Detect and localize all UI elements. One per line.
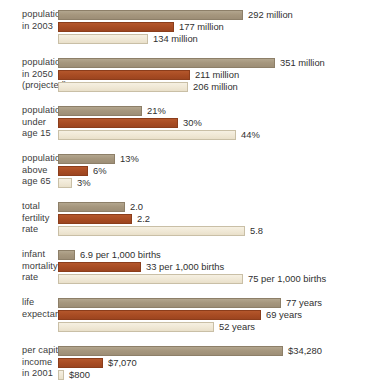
bar-value-label: $34,280 [288,346,322,356]
bar-value-label: 211 million [195,70,239,80]
bar-value-label: 52 years [219,322,255,332]
category-label-line: population [22,153,58,165]
category-label-line: total [22,201,58,213]
category-label-line: in 2003 [22,21,58,33]
bar-value-label: 177 million [179,22,224,32]
bar-series-2 [58,22,174,32]
bar-set: 21%30%44% [58,104,383,142]
bar-set: 292 million177 million134 million [58,8,383,46]
bar-series-2 [58,262,141,272]
bar-series-2 [58,118,178,128]
bar-value-label: 75 per 1,000 births [248,274,326,284]
bar-group: totalfertilityrate2.02.25.8 [0,200,383,238]
category-label-line: rate [22,272,58,284]
bar-set: 6.9 per 1,000 births33 per 1,000 births7… [58,248,383,286]
bar-value-label: 77 years [286,298,322,308]
bar-row: 44% [58,130,383,140]
bar-row: 52 years [58,322,383,332]
bar-row: 30% [58,118,383,128]
bar-series-2 [58,358,103,368]
bar-series-1 [58,298,281,308]
bar-group: infantmortalityrate6.9 per 1,000 births3… [0,248,383,286]
bar-row: 177 million [58,22,383,32]
bar-value-label: 33 per 1,000 births [146,262,224,272]
category-label: infantmortalityrate [0,248,58,284]
bar-row: 134 million [58,34,383,44]
bar-set: $34,280$7,070$800 [58,344,383,382]
bar-row: 292 million [58,10,383,20]
bar-value-label: 30% [183,118,202,128]
bar-group: populationunderage 1521%30%44% [0,104,383,142]
category-label: lifeexpectancy [0,296,58,320]
bar-series-2 [58,310,261,320]
bar-set: 13%6%3% [58,152,383,190]
bar-row: 33 per 1,000 births [58,262,383,272]
bar-series-3 [58,274,243,284]
bar-group: lifeexpectancy77 years69 years52 years [0,296,383,334]
bar-row: 13% [58,154,383,164]
bar-series-1 [58,58,275,68]
bar-row: 77 years [58,298,383,308]
bar-row: 351 million [58,58,383,68]
bar-row: $34,280 [58,346,383,356]
category-label-line: above [22,165,58,177]
bar-row: 211 million [58,70,383,80]
bar-series-3 [58,34,148,44]
bar-value-label: 206 million [193,82,238,92]
bar-series-3 [58,82,188,92]
bar-row: 75 per 1,000 births [58,274,383,284]
category-label-line: (projected) [22,80,58,92]
bar-row: $7,070 [58,358,383,368]
bar-value-label: $7,070 [108,358,137,368]
bar-value-label: 69 years [266,310,302,320]
category-label: totalfertilityrate [0,200,58,236]
category-label: populationin 2050(projected) [0,56,58,92]
category-label: populationunderage 15 [0,104,58,140]
bar-series-1 [58,10,243,20]
bar-series-3 [58,322,214,332]
category-label-line: expectancy [22,309,58,321]
bar-value-label: 2.2 [137,214,150,224]
bar-value-label: $800 [69,370,90,380]
category-label-line: in 2050 [22,69,58,81]
bar-value-label: 5.8 [250,226,263,236]
bar-group: populationin 2050(projected)351 million2… [0,56,383,94]
bar-value-label: 292 million [248,10,293,20]
bar-row: 6% [58,166,383,176]
bar-row: 3% [58,178,383,188]
category-label: populationaboveage 65 [0,152,58,188]
bar-series-1 [58,106,142,116]
category-label-line: mortality [22,261,58,273]
bar-value-label: 2.0 [130,202,143,212]
bar-value-label: 6.9 per 1,000 births [80,250,161,260]
bar-row: 206 million [58,82,383,92]
category-label: per capitaincomein 2001 [0,344,58,380]
bar-value-label: 3% [77,178,91,188]
bar-row: 6.9 per 1,000 births [58,250,383,260]
bar-row: 2.2 [58,214,383,224]
bar-group: per capitaincomein 2001$34,280$7,070$800 [0,344,383,382]
category-label-line: infant [22,249,58,261]
bar-series-3 [58,226,245,236]
comparative-demographics-bar-chart: populationin 2003292 million177 million1… [0,0,383,386]
category-label: populationin 2003 [0,8,58,32]
category-label-line: under [22,117,58,129]
bar-value-label: 351 million [280,58,325,68]
bar-row: 21% [58,106,383,116]
category-label-line: population [22,9,58,21]
bar-series-2 [58,214,132,224]
category-label-line: age 65 [22,176,58,188]
bar-value-label: 21% [147,106,166,116]
category-label-line: income [22,357,58,369]
bar-series-1 [58,346,283,356]
bar-value-label: 6% [93,166,107,176]
bar-series-3 [58,370,64,380]
bar-row: 2.0 [58,202,383,212]
bar-series-2 [58,70,190,80]
bar-value-label: 13% [120,154,139,164]
bar-series-2 [58,166,88,176]
bar-series-1 [58,154,115,164]
bar-set: 77 years69 years52 years [58,296,383,334]
bar-series-3 [58,130,236,140]
bar-value-label: 44% [241,130,260,140]
